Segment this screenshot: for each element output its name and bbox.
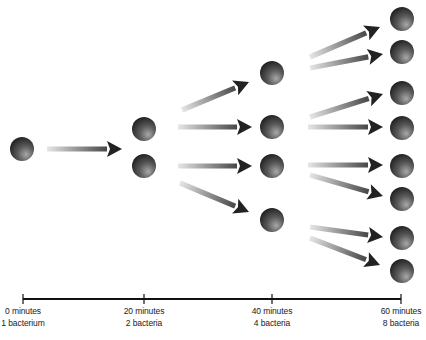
arrow: [47, 141, 122, 157]
arrow-head-icon: [237, 158, 252, 174]
count-label: 8 bacteria: [356, 317, 426, 329]
arrow-head-icon: [368, 157, 383, 173]
bacterium-icon: [260, 61, 284, 85]
arrow: [309, 91, 383, 120]
arrow-shaft: [310, 224, 369, 237]
bacterium-icon: [390, 259, 414, 283]
bacterium-icon: [10, 137, 34, 161]
time-label: 20 minutes: [99, 305, 189, 317]
bacterium-icon: [390, 154, 414, 178]
bacterium-icon: [260, 115, 284, 139]
timeline-axis: [23, 294, 401, 304]
arrow-shaft: [178, 124, 237, 129]
diagram-canvas: [0, 0, 426, 340]
generation-3: [390, 7, 414, 283]
bacterial-growth-diagram: 0 minutes 1 bacterium 20 minutes 2 bacte…: [0, 0, 426, 340]
arrow: [178, 158, 252, 174]
bacterium-icon: [390, 116, 414, 140]
generation-1: [132, 117, 156, 178]
arrow-head-icon: [367, 227, 383, 243]
arrow: [309, 26, 380, 60]
arrow-shaft: [47, 146, 107, 151]
bacterium-icon: [390, 187, 414, 211]
generation-2: [260, 61, 284, 232]
count-label: 4 bacteria: [227, 317, 317, 329]
arrow-shaft: [309, 236, 367, 262]
timeline-label-40: 40 minutes 4 bacteria: [227, 305, 317, 329]
time-label: 60 minutes: [356, 305, 426, 317]
bacterium-icon: [260, 154, 284, 178]
timeline-label-60: 60 minutes 8 bacteria: [356, 305, 426, 329]
bacterium-icon: [390, 7, 414, 31]
arrow-shaft: [178, 163, 237, 168]
count-label: 2 bacteria: [99, 317, 189, 329]
bacterium-icon: [260, 208, 284, 232]
arrow-shaft: [310, 54, 369, 70]
bacterium-icon: [390, 40, 414, 64]
bacteria-cells: [10, 7, 414, 283]
bacterium-icon: [390, 81, 414, 105]
time-label: 0 minutes: [0, 305, 68, 317]
arrow: [181, 80, 249, 112]
arrow-head-icon: [366, 91, 383, 106]
arrow-shaft: [308, 162, 368, 167]
arrow: [308, 157, 383, 173]
bacterium-icon: [132, 117, 156, 141]
arrow-shaft: [179, 181, 236, 209]
generation-0: [10, 137, 34, 161]
arrow-shaft: [308, 124, 368, 129]
arrow-head-icon: [366, 184, 383, 199]
arrow-head-icon: [368, 119, 383, 135]
arrow: [179, 181, 249, 214]
arrow-shaft: [309, 96, 369, 119]
arrow-head-icon: [107, 141, 122, 157]
arrow: [178, 119, 252, 135]
division-arrows: [47, 26, 383, 268]
arrow-shaft: [309, 31, 367, 60]
arrow-shaft: [181, 85, 236, 112]
count-label: 1 bacterium: [0, 317, 68, 329]
timeline-label-0: 0 minutes 1 bacterium: [0, 305, 68, 329]
time-label: 40 minutes: [227, 305, 317, 317]
arrow-head-icon: [367, 49, 383, 65]
arrow: [308, 119, 383, 135]
arrow-shaft: [309, 173, 369, 195]
arrow-head-icon: [237, 119, 252, 135]
arrow: [309, 173, 383, 200]
bacterium-icon: [132, 154, 156, 178]
timeline-label-20: 20 minutes 2 bacteria: [99, 305, 189, 329]
bacterium-icon: [390, 226, 414, 250]
